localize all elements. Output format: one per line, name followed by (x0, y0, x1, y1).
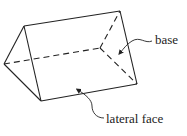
base-leader-arrow (120, 39, 152, 53)
hidden-edge-back-bottom (100, 48, 137, 84)
hidden-edge-middle (4, 48, 100, 64)
back-edge-vertical (120, 11, 137, 84)
top-edge (24, 11, 120, 26)
lateral-face-label: lateral face (106, 111, 163, 127)
front-edge-top (4, 26, 24, 64)
hidden-edge-back-top (100, 11, 120, 48)
front-edge-bottom (4, 64, 41, 101)
front-edge-vertical (24, 26, 41, 101)
base-label: base (155, 32, 178, 48)
